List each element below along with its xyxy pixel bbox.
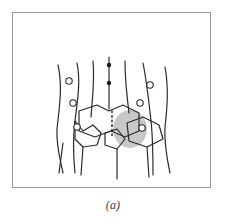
tail-right (147, 147, 149, 177)
open-circle-left-1 (66, 78, 72, 84)
inner-left-contour (74, 63, 79, 173)
figure-frame (12, 12, 211, 188)
figure-container: (a) (0, 0, 226, 223)
solid-dot-upper (107, 63, 111, 67)
line-drawing (13, 13, 212, 189)
right-mid-contour (125, 61, 129, 113)
outer-left-contour (57, 65, 63, 173)
open-circle-right-3 (139, 125, 145, 131)
open-circle-right-2 (137, 100, 143, 106)
figure-caption: (a) (0, 198, 226, 213)
left-mid-contour (91, 61, 94, 117)
solid-dot-lower (107, 81, 111, 85)
outer-right-contour (165, 67, 170, 173)
open-circle-left-3 (74, 124, 80, 130)
open-circle-right-1 (147, 82, 153, 88)
tail-left (81, 147, 83, 175)
tail-stroke-group (59, 143, 149, 179)
open-circle-left-2 (70, 100, 76, 106)
contour-line-group (57, 57, 170, 175)
